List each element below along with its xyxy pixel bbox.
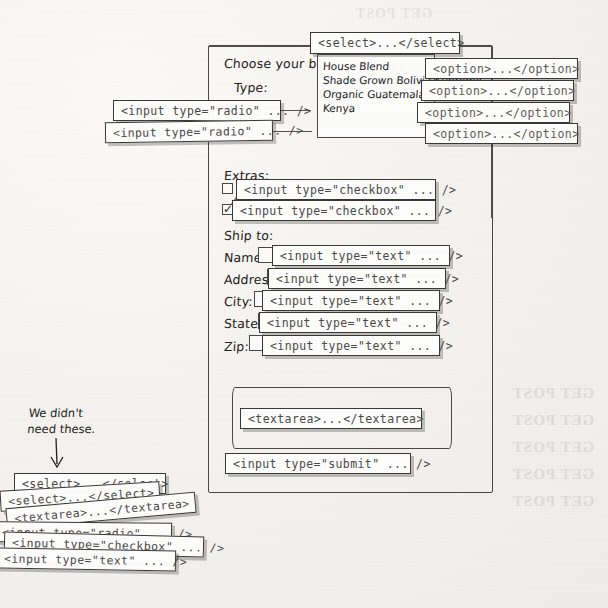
annotation-line-2: need these. (27, 422, 96, 438)
select-option-shade-grown[interactable]: Shade Grown Bolivia Supremo (318, 73, 435, 87)
bleed-text: GET POST (512, 385, 594, 402)
bleed-text: GET POST (512, 466, 594, 483)
label-ship-to: Ship to: (223, 228, 274, 243)
callout-option-4[interactable]: <option>...</option> (425, 123, 578, 144)
callout-text-name[interactable]: <input type="text" ... /> (272, 245, 450, 266)
callout-radio-1[interactable]: <input type="radio" ... /> (113, 100, 281, 121)
bleed-text: GET POST (512, 439, 594, 456)
callout-submit[interactable]: <input type="submit" ... /> (225, 453, 411, 474)
label-city: City: (223, 294, 253, 309)
select-option-organic-guatemala[interactable]: Organic Guatemala (318, 87, 435, 101)
callout-radio-2[interactable]: <input type="radio" ... /> (105, 120, 273, 143)
callout-text-city[interactable]: <input type="text" ... /> (262, 290, 440, 311)
bleed-text: GET POST (512, 412, 594, 429)
annotation-line-1: We didn't (28, 406, 97, 422)
callout-option-2[interactable]: <option>...</option> (421, 80, 574, 101)
callout-text-zip[interactable]: <input type="text" ... /> (262, 335, 440, 356)
label-type: Type: (233, 80, 268, 95)
sketch-page: GET POST GET POST GET POST GET POST GET … (0, 0, 608, 608)
select-listbox[interactable]: House Blend Shade Grown Bolivia Supremo … (317, 54, 435, 138)
callout-option-1[interactable]: <option>...</option> (425, 58, 578, 79)
callout-textarea[interactable]: <textarea>...</textarea> (240, 408, 422, 429)
callout-option-3[interactable]: <option>...</option> (417, 102, 570, 123)
bleed-text: GET POST (512, 493, 594, 510)
label-zip: Zip: (223, 339, 249, 354)
callout-checkbox-1[interactable]: <input type="checkbox" ... /> (236, 179, 436, 200)
down-arrow-icon (48, 438, 70, 472)
annotation-note: We didn't need these. (27, 406, 98, 437)
callout-select-tag[interactable]: <select>...</select> (310, 32, 460, 54)
callout-text-state[interactable]: <input type="text" ... /> (259, 312, 437, 333)
leftover-callout-text[interactable]: <input type="text" ... /> (0, 547, 176, 571)
callout-text-address[interactable]: <input type="text" ... /> (268, 268, 446, 289)
bleed-text-top: GET POST (355, 6, 432, 22)
callout-checkbox-2[interactable]: <input type="checkbox" ... /> (232, 200, 436, 221)
select-option-house-blend[interactable]: House Blend (318, 59, 435, 73)
